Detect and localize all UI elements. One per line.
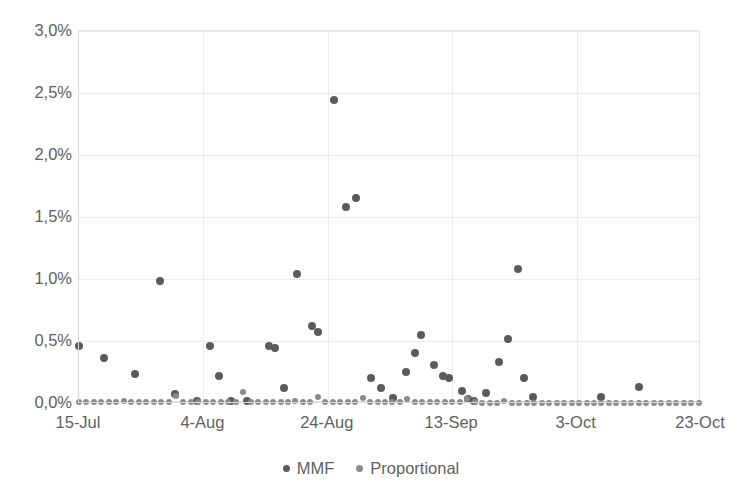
y-axis-tick-label: 1,0%: [4, 270, 72, 287]
data-point-mmf: [271, 344, 279, 352]
y-axis-tick-label: 0,5%: [4, 332, 72, 349]
gridline-horizontal: [79, 93, 699, 94]
data-point-proportional: [576, 400, 582, 406]
data-point-proportional: [531, 400, 537, 406]
scatter-chart: 0,0%0,5%1,0%1,5%2,0%2,5%3,0% MMFProporti…: [0, 0, 742, 501]
data-point-proportional: [628, 400, 634, 406]
x-axis-tick-label: 3-Oct: [555, 414, 595, 431]
data-point-mmf: [367, 374, 375, 382]
y-axis-line: [78, 30, 79, 402]
data-point-proportional: [584, 400, 590, 406]
x-axis-tick-label: 4-Aug: [180, 414, 224, 431]
gridline-horizontal: [79, 279, 699, 280]
data-point-proportional: [479, 400, 485, 406]
x-axis-tick-label: 15-Jul: [56, 414, 101, 431]
data-point-proportional: [240, 389, 246, 395]
data-point-proportional: [643, 400, 649, 406]
x-axis-line: [78, 402, 700, 403]
data-point-proportional: [546, 400, 552, 406]
x-axis-tick-label: 24-Aug: [300, 414, 353, 431]
data-point-mmf: [156, 277, 164, 285]
data-point-proportional: [360, 395, 366, 401]
data-point-mmf: [377, 384, 385, 392]
data-point-mmf: [417, 331, 425, 339]
data-point-mmf: [430, 361, 438, 369]
data-point-proportional: [636, 400, 642, 406]
legend-marker-icon: [356, 465, 363, 472]
legend-item-mmf[interactable]: MMF: [283, 459, 335, 478]
data-point-proportional: [487, 400, 493, 406]
data-point-mmf: [100, 354, 108, 362]
data-point-mmf: [402, 368, 410, 376]
data-point-mmf: [445, 374, 453, 382]
y-axis-tick-label: 3,0%: [4, 22, 72, 39]
data-point-mmf: [75, 342, 83, 350]
data-point-mmf: [280, 384, 288, 392]
gridline-horizontal: [79, 217, 699, 218]
data-point-proportional: [658, 400, 664, 406]
data-point-mmf: [504, 335, 512, 343]
data-point-proportional: [681, 400, 687, 406]
data-point-proportional: [509, 400, 515, 406]
y-axis-tick-label: 1,5%: [4, 208, 72, 225]
data-point-proportional: [696, 400, 702, 406]
data-point-proportional: [606, 400, 612, 406]
gridline-horizontal: [79, 155, 699, 156]
data-point-mmf: [131, 370, 139, 378]
plot-area: [78, 30, 700, 402]
data-point-mmf: [314, 328, 322, 336]
gridline-vertical: [203, 31, 204, 401]
data-point-proportional: [673, 400, 679, 406]
data-point-mmf: [215, 372, 223, 380]
legend-marker-icon: [283, 465, 290, 472]
data-point-proportional: [651, 400, 657, 406]
gridline-vertical: [328, 31, 329, 401]
data-point-proportional: [315, 394, 321, 400]
data-point-proportional: [494, 400, 500, 406]
data-point-mmf: [520, 374, 528, 382]
data-point-mmf: [293, 270, 301, 278]
data-point-mmf: [206, 342, 214, 350]
legend-label: Proportional: [370, 459, 459, 478]
gridline-horizontal: [79, 31, 699, 32]
data-point-proportional: [621, 400, 627, 406]
data-point-mmf: [352, 194, 360, 202]
data-point-mmf: [482, 389, 490, 397]
data-point-mmf: [458, 387, 466, 395]
y-axis-tick-label: 2,0%: [4, 146, 72, 163]
data-point-proportional: [666, 400, 672, 406]
data-point-proportional: [561, 400, 567, 406]
y-axis-tick-label: 0,0%: [4, 394, 72, 411]
data-point-proportional: [554, 400, 560, 406]
chart-legend: MMFProportional: [0, 459, 742, 478]
legend-item-proportional[interactable]: Proportional: [356, 459, 459, 478]
data-point-proportional: [524, 400, 530, 406]
data-point-proportional: [516, 400, 522, 406]
data-point-proportional: [569, 400, 575, 406]
data-point-mmf: [495, 358, 503, 366]
legend-label: MMF: [297, 459, 335, 478]
x-axis-tick-label: 23-Oct: [675, 414, 725, 431]
data-point-proportional: [591, 400, 597, 406]
data-point-mmf: [342, 203, 350, 211]
data-point-mmf: [514, 265, 522, 273]
data-point-proportional: [688, 400, 694, 406]
data-point-proportional: [173, 393, 179, 399]
gridline-vertical: [577, 31, 578, 401]
data-point-mmf: [635, 383, 643, 391]
data-point-mmf: [411, 349, 419, 357]
data-point-mmf: [330, 96, 338, 104]
data-point-proportional: [613, 400, 619, 406]
y-axis-tick-label: 2,5%: [4, 84, 72, 101]
gridline-vertical: [452, 31, 453, 401]
x-axis-tick-label: 13-Sep: [425, 414, 478, 431]
data-point-proportional: [539, 400, 545, 406]
data-point-proportional: [598, 400, 604, 406]
gridline-horizontal: [79, 341, 699, 342]
